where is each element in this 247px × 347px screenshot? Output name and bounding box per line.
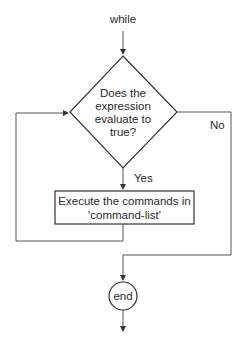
decision-line-2: expression	[95, 100, 151, 112]
yes-label: Yes	[134, 172, 153, 184]
decision-node: Does the expression evaluate to true?	[70, 56, 177, 168]
decision-line-4: true?	[110, 126, 136, 138]
decision-diamond	[70, 56, 177, 168]
flowchart-canvas: while Does the expression evaluate to tr…	[0, 0, 247, 347]
start-label: while	[109, 13, 136, 25]
process-line-1: Execute the commands in	[58, 195, 190, 207]
process-node: Execute the commands in 'command-list'	[55, 191, 194, 224]
decision-line-3: evaluate to	[95, 113, 151, 125]
arrow-start-to-decision	[120, 31, 126, 55]
arrow-exit	[120, 310, 126, 332]
end-node: end	[109, 282, 137, 310]
edge-yes: Yes	[120, 168, 153, 190]
process-line-2: 'command-list'	[88, 209, 161, 221]
no-label: No	[210, 119, 225, 131]
decision-line-1: Does the	[100, 87, 146, 99]
end-label: end	[113, 290, 132, 302]
